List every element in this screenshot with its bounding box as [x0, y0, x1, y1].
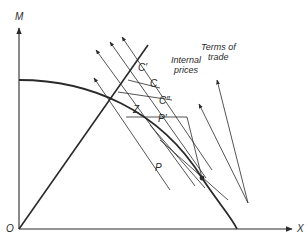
terms-of-trade-label: Terms of trade — [201, 42, 236, 62]
y-axis-label: M — [15, 12, 23, 22]
line-P-prime-to-P — [187, 117, 202, 178]
terms-of-trade-label-line2: trade — [201, 52, 236, 62]
terms-of-trade-arrow — [217, 80, 248, 203]
label-P: P — [155, 163, 162, 173]
internal-prices-arrow — [199, 104, 248, 203]
internal-price-line-at-P — [160, 140, 228, 200]
x-axis-label: X — [297, 224, 304, 234]
label-C-double-prime: C″ — [159, 96, 170, 106]
label-P-prime: P′ — [158, 114, 167, 124]
origin-label: O — [6, 224, 14, 234]
terms-of-trade-label-line1: Terms of — [201, 42, 236, 52]
trade-diagram — [0, 0, 308, 243]
point-P — [200, 176, 205, 181]
label-C: C — [150, 79, 157, 89]
income-expansion-ray — [19, 45, 148, 229]
label-Z: Z — [133, 105, 139, 115]
production-possibility-curve — [19, 80, 237, 229]
label-C-prime: C′ — [138, 63, 147, 73]
internal-prices-label-line1: Internal — [171, 55, 201, 65]
internal-prices-label: Internal prices — [171, 55, 201, 75]
internal-prices-label-line2: prices — [171, 65, 201, 75]
